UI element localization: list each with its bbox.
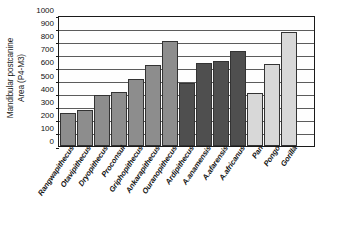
x-axis-tick-label: Pan [250, 145, 264, 161]
y-axis-tick-label: 900 [41, 20, 54, 28]
bar-slot [127, 17, 144, 146]
bar-slot [144, 17, 161, 146]
bar[interactable] [77, 110, 93, 146]
bar-slot [229, 17, 246, 146]
y-axis-tick-label: 700 [41, 46, 54, 54]
y-axis-tick-label: 500 [41, 73, 54, 81]
bar-slot [59, 17, 76, 146]
y-axis-tick-label: 600 [41, 59, 54, 67]
plot-area [58, 16, 315, 147]
bar-slot [161, 17, 178, 146]
y-axis-title-line-1: Mandibular postcanine [6, 38, 15, 118]
bar-slot [195, 17, 212, 146]
bar-chart-figure: Mandibular postcanine Area (P4-M3) 01002… [0, 0, 341, 225]
bar-slot [212, 17, 229, 146]
y-axis-tick-label: 300 [41, 99, 54, 107]
bar-slot [263, 17, 280, 146]
bar-slot [110, 17, 127, 146]
bar[interactable] [213, 61, 229, 146]
bar-slot [76, 17, 93, 146]
bar[interactable] [94, 95, 110, 145]
bar[interactable] [111, 92, 127, 145]
bar[interactable] [247, 93, 263, 145]
y-axis-title: Mandibular postcanine Area (P4-M3) [2, 8, 30, 148]
y-axis-tick-label: 800 [41, 33, 54, 41]
bar[interactable] [196, 63, 212, 145]
y-axis-tick-label: 400 [41, 86, 54, 94]
bar-slot [246, 17, 263, 146]
bar-series [59, 17, 314, 146]
y-axis-tick-label: 1000 [36, 7, 54, 15]
bar-slot [93, 17, 110, 146]
bar[interactable] [145, 65, 161, 146]
x-axis-tick-labels: RangwapithecusOtavipithecusDryopithecusP… [58, 147, 315, 225]
bar-slot [297, 17, 314, 146]
x-axis-tick-label: Pongo [262, 145, 281, 168]
bar[interactable] [264, 64, 280, 146]
y-axis-title-line-2: Area (P4-M3) [16, 54, 25, 102]
y-axis-tick-label: 0 [50, 138, 54, 146]
y-axis-title-text: Mandibular postcanine Area (P4-M3) [6, 38, 27, 118]
bar[interactable] [230, 51, 246, 146]
y-axis-tick-label: 200 [41, 112, 54, 120]
y-axis-tick-labels: 01002003004005006007008009001000 [28, 11, 56, 151]
bar[interactable] [128, 79, 144, 145]
bar[interactable] [162, 41, 178, 145]
bar[interactable] [179, 83, 195, 146]
bar[interactable] [281, 32, 297, 145]
bar-slot [280, 17, 297, 146]
bar-slot [178, 17, 195, 146]
y-axis-tick-label: 100 [41, 125, 54, 133]
bar[interactable] [60, 113, 76, 145]
